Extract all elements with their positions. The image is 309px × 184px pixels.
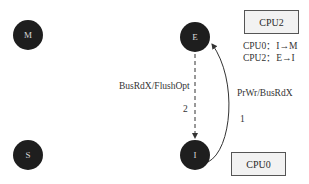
state-e-node: E bbox=[180, 22, 210, 52]
state-m-node: M bbox=[13, 20, 43, 50]
state-e-label: E bbox=[192, 32, 198, 42]
state-i-label: I bbox=[194, 150, 197, 160]
state-s-node: S bbox=[13, 140, 43, 170]
label-busrdx-flushopt: BusRdX/FlushOpt bbox=[119, 81, 190, 91]
label-prwr-busrdx: PrWr/BusRdX bbox=[237, 88, 293, 98]
curved-arrow-i-to-e bbox=[208, 44, 229, 162]
cpu0-label: CPU0 bbox=[246, 159, 270, 170]
cpu2-box: CPU2 bbox=[244, 10, 299, 34]
label-step-2: 2 bbox=[183, 104, 188, 114]
cpu2-label: CPU2 bbox=[259, 17, 283, 28]
label-step-1: 1 bbox=[240, 114, 245, 124]
note-cpu2-transition: CPU2：E→I bbox=[243, 50, 295, 64]
state-s-label: S bbox=[25, 150, 30, 160]
state-i-node: I bbox=[180, 140, 210, 170]
cpu0-box: CPU0 bbox=[231, 152, 286, 176]
state-m-label: M bbox=[24, 30, 32, 40]
